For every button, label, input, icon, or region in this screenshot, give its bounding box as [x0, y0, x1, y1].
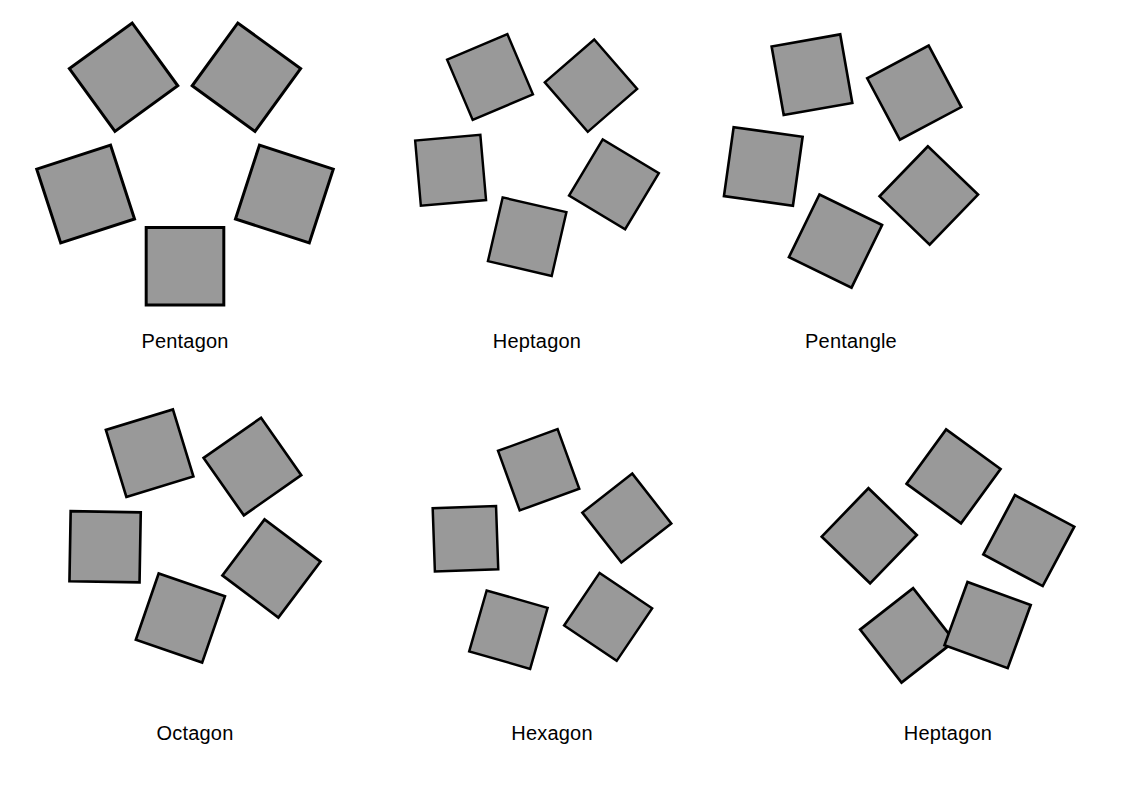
square-3: [907, 429, 1001, 523]
square-2: [822, 488, 917, 583]
figure-heptagon-spiral: Heptagon: [800, 425, 1096, 756]
square-4: [192, 23, 300, 131]
rosette-pentagon: [20, 18, 350, 310]
square-1: [488, 197, 566, 275]
square-1: [136, 574, 225, 663]
square-2: [724, 127, 803, 206]
square-5: [945, 582, 1031, 668]
square-2: [433, 506, 499, 572]
square-5: [222, 519, 320, 617]
figure-caption-hexagon: Hexagon: [404, 722, 700, 745]
figure-pentangle: Pentangle: [706, 30, 996, 364]
square-2: [37, 145, 135, 243]
figure-caption-octagon: Octagon: [50, 722, 340, 745]
square-3: [69, 23, 177, 131]
figure-caption-pentangle: Pentangle: [706, 330, 996, 353]
square-3: [498, 429, 579, 510]
figure-caption-heptagon: Heptagon: [392, 330, 682, 353]
square-4: [867, 46, 961, 140]
figure-octagon: Octagon: [50, 405, 340, 756]
rosette-heptagon-spiral: [800, 425, 1096, 687]
square-4: [983, 495, 1074, 586]
figure-caption-heptagon-spiral: Heptagon: [800, 722, 1096, 745]
square-2: [69, 511, 140, 582]
figure-pentagon: Pentagon: [20, 18, 350, 364]
square-5: [235, 145, 333, 243]
square-4: [582, 474, 671, 563]
figure-sheet: PentagonHeptagonPentangleOctagonHexagonH…: [0, 0, 1127, 792]
rosette-pentangle: [706, 30, 996, 292]
square-3: [772, 34, 853, 115]
square-4: [545, 39, 637, 131]
square-2: [415, 135, 486, 206]
square-5: [880, 146, 978, 244]
square-4: [204, 418, 302, 516]
square-5: [569, 139, 659, 229]
square-1: [469, 590, 547, 668]
square-1: [789, 195, 882, 288]
rosette-hexagon: [404, 425, 700, 673]
rosette-heptagon: [392, 30, 682, 280]
square-5: [564, 573, 652, 661]
square-3: [106, 409, 194, 497]
figure-caption-pentagon: Pentagon: [20, 330, 350, 353]
square-1: [860, 588, 954, 682]
figure-heptagon: Heptagon: [392, 30, 682, 364]
figure-hexagon: Hexagon: [404, 425, 700, 756]
square-3: [447, 34, 533, 120]
square-1: [146, 227, 224, 305]
rosette-octagon: [50, 405, 340, 667]
